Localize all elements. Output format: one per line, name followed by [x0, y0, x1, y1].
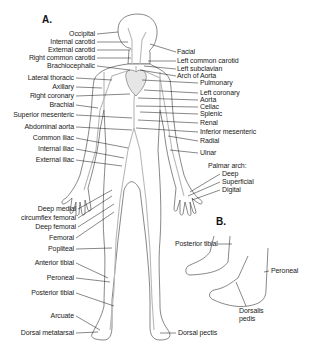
label-external-carotid: External carotid: [48, 46, 95, 54]
label-radial: Radial: [200, 137, 219, 145]
label-right-coronary: Right coronary: [30, 92, 74, 100]
label-inferior-mesenteric: Inferior mesenteric: [200, 128, 256, 136]
label-b-peroneal: Peroneal: [271, 267, 298, 275]
label-left-common-carotid: Left common carotid: [177, 57, 239, 65]
label-facial: Facial: [177, 48, 195, 56]
panel-b-label: B.: [216, 216, 226, 227]
label-dorsal-metatarsal: Dorsal metatarsal: [21, 329, 74, 337]
label-b-posterior-tibial: Posterior tibial: [175, 240, 218, 248]
label-renal: Renal: [200, 119, 218, 127]
label-lateral-thoracic: Lateral thoracic: [28, 74, 74, 82]
label-arcuate: Arcuate: [51, 312, 74, 320]
label-right-common-carotid: Right common carotid: [29, 54, 95, 62]
label-brachiocephalic: Brachiocephalic: [47, 62, 95, 70]
label-deep-femoral: Deep femoral: [35, 223, 76, 231]
label-abdominal-aorta: Abdominal aorta: [25, 123, 74, 131]
panel-a-label: A.: [42, 14, 52, 25]
label-deep: Deep: [222, 170, 238, 178]
label-b-pedis: pedis: [239, 315, 255, 323]
neck-outline: [128, 50, 150, 64]
label-ulnar: Ulnar: [200, 149, 216, 157]
arterial-system-diagram: A. B. Occipital Internal carotid Externa…: [0, 0, 310, 361]
label-femoral: Femoral: [49, 234, 74, 242]
label-dorsal-pectis: Dorsal pectis: [178, 329, 217, 337]
label-anterior-tibial: Anterior tibial: [35, 259, 74, 267]
label-superior-mesenteric: Superior mesenteric: [13, 111, 74, 119]
body-outline: [62, 64, 202, 340]
label-axillary: Axillary: [52, 83, 74, 91]
label-pulmonary: Pulmonary: [200, 79, 233, 87]
label-digital: Digital: [222, 186, 241, 194]
label-deep-medial: Deep medial: [38, 205, 76, 213]
label-b-dorsalis: Dorsalis: [239, 307, 263, 315]
label-brachial: Brachial: [50, 101, 75, 109]
label-posterior-tibial: Posterior tibial: [31, 289, 74, 297]
label-splenic: Splenic: [200, 110, 222, 118]
label-palmar-arch: Palmar arch:: [208, 162, 246, 170]
label-popliteal: Popliteal: [48, 245, 74, 253]
label-occipital: Occipital: [69, 30, 95, 38]
label-external-iliac: External iliac: [36, 156, 74, 164]
label-internal-iliac: Internal iliac: [38, 145, 74, 153]
label-common-iliac: Common iliac: [33, 134, 74, 142]
label-internal-carotid: Internal carotid: [50, 38, 95, 46]
label-circumflex-femoral: circumflex femoral: [21, 214, 76, 222]
label-superficial: Superficial: [222, 178, 254, 186]
label-peroneal: Peroneal: [47, 274, 74, 282]
